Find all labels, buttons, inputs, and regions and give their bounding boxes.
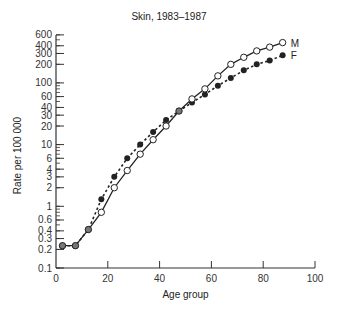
y-tick-label: 600 — [35, 29, 52, 40]
series-f-point — [137, 142, 143, 148]
y-tick-label: 0.4 — [38, 225, 52, 236]
y-axis-label: Rate per 100 000 — [12, 101, 23, 211]
legend-label-m: M — [291, 38, 299, 49]
series-m-point — [189, 96, 195, 102]
series-f-point — [111, 174, 117, 180]
y-tick-label: 0.6 — [38, 214, 52, 225]
series-m-point — [241, 54, 247, 60]
series-f-line — [62, 55, 282, 245]
series-m-point — [59, 242, 65, 248]
series-m-point — [266, 44, 272, 50]
series-f-point — [215, 83, 221, 89]
series-f-point — [98, 196, 104, 202]
y-tick-label: 0.2 — [38, 244, 52, 255]
y-tick-label: 1 — [46, 201, 52, 212]
y-tick-label: 200 — [35, 59, 52, 70]
x-tick-label: 0 — [53, 273, 59, 284]
y-tick-label: 400 — [35, 40, 52, 51]
x-tick-label: 80 — [258, 273, 270, 284]
series-f-point — [241, 67, 247, 73]
y-tick-label: 100 — [35, 77, 52, 88]
y-tick-label: 0.1 — [38, 263, 52, 274]
y-tick-label: 20 — [41, 121, 53, 132]
series-m-point — [111, 185, 117, 191]
series-f-point — [228, 75, 234, 81]
series-m-point — [150, 137, 156, 143]
x-tick-label: 20 — [102, 273, 114, 284]
series-m-point — [137, 151, 143, 157]
x-tick-label: 100 — [307, 273, 324, 284]
y-tick-label: 60 — [41, 91, 53, 102]
x-tick-label: 60 — [206, 273, 218, 284]
y-tick-label: 10 — [41, 139, 53, 150]
legend-label-f: F — [291, 50, 297, 61]
x-tick-label: 40 — [154, 273, 166, 284]
series-m-point — [176, 108, 182, 114]
series-f-point — [280, 52, 286, 58]
series-m-point — [228, 61, 234, 67]
series-m-point — [279, 39, 285, 45]
series-m-point — [124, 167, 130, 173]
series-m-point — [163, 123, 169, 129]
series-m-point — [215, 73, 221, 79]
y-tick-label: 40 — [41, 102, 53, 113]
series-m-point — [254, 48, 260, 54]
series-m-point — [72, 242, 78, 248]
series-f-point — [124, 155, 130, 161]
series-f-point — [254, 61, 260, 67]
series-f-point — [150, 129, 156, 135]
series-f-point — [163, 117, 169, 123]
y-tick-label: 6 — [46, 153, 52, 164]
series-m-line — [62, 43, 282, 246]
chart-plot: 0204060801000.10.20.30.40.61234610203040… — [0, 0, 338, 313]
series-m-point — [85, 226, 91, 232]
y-tick-label: 4 — [46, 164, 52, 175]
series-m-point — [98, 209, 104, 215]
series-f-point — [267, 58, 273, 64]
y-tick-label: 2 — [46, 182, 52, 193]
x-axis-label: Age group — [56, 289, 315, 300]
series-m-point — [202, 86, 208, 92]
